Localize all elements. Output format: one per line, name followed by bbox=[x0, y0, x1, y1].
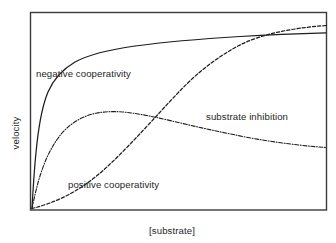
label-substrate-inhibition: substrate inhibition bbox=[206, 111, 288, 122]
enzyme-kinetics-figure: negative cooperativity substrate inhibit… bbox=[0, 0, 336, 243]
x-axis-label: [substrate] bbox=[149, 225, 195, 236]
label-negative-cooperativity: negative cooperativity bbox=[36, 68, 131, 79]
label-positive-cooperativity: positive cooperativity bbox=[68, 179, 159, 190]
plot-canvas: negative cooperativity substrate inhibit… bbox=[0, 0, 336, 243]
y-axis-label: velocity bbox=[10, 117, 21, 150]
